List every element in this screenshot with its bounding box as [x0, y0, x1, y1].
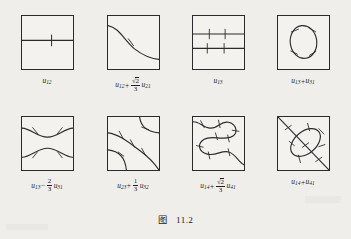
panel-7-frame — [192, 116, 245, 171]
curve-arc-bulging-up — [22, 148, 73, 157]
panel-4-term2-sub: 31 — [309, 79, 314, 85]
panel-5-curves — [22, 117, 73, 170]
panel-2-frac-denominator: 3 — [131, 85, 140, 93]
panel-2-frame — [107, 15, 160, 70]
curve-closed-oval — [288, 24, 319, 60]
figure-caption-number: 11.2 — [176, 215, 193, 225]
panel-2-curves — [108, 16, 159, 69]
curve-descending-s — [108, 26, 159, 60]
orientation-tick — [208, 152, 210, 159]
panel-1: u12 — [7, 15, 87, 86]
panel-2-term2-sub: 21 — [145, 83, 150, 89]
panel-7-fraction: √2 3 — [216, 178, 225, 195]
orientation-tick — [128, 39, 133, 46]
panel-8: u14 + u41 — [263, 116, 343, 187]
panel-8-term2-sub: 41 — [309, 180, 314, 186]
panel-8-frame — [277, 116, 330, 171]
panel-7-frac-numerator: 2 — [220, 178, 224, 186]
panel-6-operator: + — [126, 182, 131, 189]
panel-4-label: u13 + u31 — [263, 77, 343, 86]
orientation-tick — [227, 135, 229, 142]
panel-3-term1-sub: 13 — [217, 79, 222, 85]
panel-7-operator: + — [209, 183, 214, 190]
figure-11-2: u12 u12 + √2 3 — [0, 0, 351, 239]
panel-7-label: u14 + √2 3 u41 — [178, 178, 258, 195]
panel-8-label: u14 + u41 — [263, 178, 343, 187]
panel-1-term1-sub: 12 — [46, 79, 51, 85]
panel-6-frame — [107, 116, 160, 171]
panel-3-frame — [192, 15, 245, 70]
curve-main-diagonal — [278, 117, 329, 170]
orientation-tick — [318, 145, 324, 147]
panel-7: u14 + √2 3 u41 — [178, 116, 258, 195]
panel-2-fraction: √2 3 — [131, 77, 140, 94]
panel-6-term2-sub: 32 — [143, 184, 148, 190]
panel-6: u23 + 1 3 u32 — [93, 116, 173, 194]
curve-corner-arc-top-right — [139, 117, 158, 133]
panel-2-operator: + — [124, 82, 129, 89]
figure-caption: 图11.2 — [0, 212, 351, 226]
panel-5-frame — [21, 116, 74, 171]
panel-8-curves — [278, 117, 329, 170]
orientation-tick — [307, 123, 309, 130]
orientation-tick — [215, 133, 217, 140]
panel-5: u13 − 2 3 u31 — [7, 116, 87, 194]
panel-2-label: u12 + √2 3 u21 — [93, 77, 173, 94]
panel-grid: u12 u12 + √2 3 — [0, 0, 351, 239]
panel-5-frac-denominator: 3 — [47, 185, 53, 193]
panel-6-frac-numerator: 1 — [133, 178, 139, 185]
panel-7-frac-denominator: 3 — [216, 186, 225, 194]
orientation-tick — [232, 130, 239, 131]
panel-5-label: u13 − 2 3 u31 — [7, 178, 87, 194]
figure-caption-cjk: 图 — [158, 214, 167, 225]
panel-3: u13 — [178, 15, 258, 86]
panel-5-fraction: 2 3 — [47, 178, 53, 194]
panel-5-operator: − — [40, 182, 45, 189]
panel-5-term2-sub: 31 — [57, 184, 62, 190]
panel-1-curves — [22, 16, 73, 69]
panel-3-curves — [193, 16, 244, 69]
panel-2: u12 + √2 3 u21 — [93, 15, 173, 94]
panel-1-frame — [21, 15, 74, 70]
panel-2-radical: √2 — [132, 77, 139, 85]
panel-4: u13 + u31 — [263, 15, 343, 86]
panel-6-curves — [108, 117, 159, 170]
panel-6-label: u23 + 1 3 u32 — [93, 178, 173, 194]
panel-4-frame — [277, 15, 330, 70]
curve-arc-dipping-down — [22, 128, 73, 137]
panel-6-fraction: 1 3 — [133, 178, 139, 194]
panel-7-curves — [193, 117, 244, 170]
panel-7-radical: √2 — [217, 178, 224, 186]
panel-6-frac-denominator: 3 — [133, 185, 139, 193]
curve-serpentine-double-loop — [193, 122, 244, 165]
panel-4-curves — [278, 16, 329, 69]
curve-corner-arc-bottom-left — [108, 150, 126, 170]
panel-2-frac-numerator: 2 — [135, 77, 139, 85]
panel-3-label: u13 — [178, 77, 258, 86]
panel-1-label: u12 — [7, 77, 87, 86]
panel-5-frac-numerator: 2 — [47, 178, 53, 185]
panel-7-term2-sub: 41 — [230, 184, 235, 190]
